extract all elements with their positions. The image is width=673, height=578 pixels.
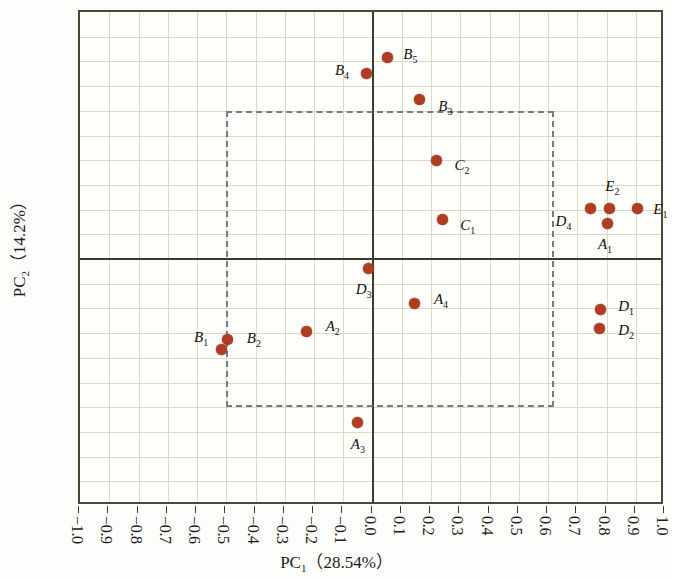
data-point-b5[interactable] xyxy=(382,52,393,63)
data-point-label-a2: A2 xyxy=(326,319,340,337)
x-tick-mark xyxy=(371,506,372,513)
x-tick-label: 0.5 xyxy=(508,516,524,535)
x-tick-mark xyxy=(78,506,79,513)
data-point-label-a4: A4 xyxy=(434,292,448,310)
x-tick-label: 0.8 xyxy=(596,516,612,535)
x-tick-mark xyxy=(224,506,225,513)
x-tick-label: −1.0 xyxy=(69,516,85,544)
gridline-horizontal xyxy=(80,457,661,458)
x-tick-mark xyxy=(254,506,255,513)
x-tick-mark xyxy=(137,506,138,513)
gridline-horizontal xyxy=(80,37,661,38)
x-tick-label: 0.0 xyxy=(362,516,378,535)
data-point-label-c2: C2 xyxy=(454,158,469,176)
data-point-d1[interactable] xyxy=(595,304,606,315)
data-point-label-d1: D1 xyxy=(618,299,634,317)
data-point-e2[interactable] xyxy=(604,203,615,214)
x-tick-mark xyxy=(341,506,342,513)
x-tick-label: 0.7 xyxy=(566,516,582,535)
x-tick-mark xyxy=(458,506,459,513)
x-tick-label: −0.4 xyxy=(245,516,261,544)
x-tick-label: −0.9 xyxy=(98,516,114,544)
x-tick-mark xyxy=(107,506,108,513)
data-point-d2[interactable] xyxy=(594,323,605,334)
data-point-label-b5: B5 xyxy=(403,47,417,65)
gridline-horizontal xyxy=(80,481,661,482)
x-tick-label: 0.1 xyxy=(391,516,407,535)
x-tick-mark xyxy=(546,506,547,513)
x-tick-label: 0.2 xyxy=(420,516,436,535)
x-tick-mark xyxy=(605,506,606,513)
x-tick-mark xyxy=(517,506,518,513)
data-point-d3[interactable] xyxy=(363,263,374,274)
data-point-label-d3: D3 xyxy=(356,282,372,300)
data-point-b3[interactable] xyxy=(414,94,425,105)
data-point-label-c1: C1 xyxy=(460,218,475,236)
data-point-a3[interactable] xyxy=(352,417,363,428)
data-point-d4[interactable] xyxy=(585,203,596,214)
pca-scatter-figure: PC2（14.2%） PC1（28.54%） 1.00.90.80.70.60.… xyxy=(0,0,673,578)
x-tick-label: −0.8 xyxy=(128,516,144,544)
gridline-horizontal xyxy=(80,86,661,87)
data-point-label-b3: B3 xyxy=(438,99,452,117)
x-tick-label: 1.0 xyxy=(654,516,670,535)
x-tick-mark xyxy=(429,506,430,513)
x-tick-label: −0.6 xyxy=(186,516,202,544)
x-tick-label: −0.5 xyxy=(215,516,231,544)
x-tick-mark xyxy=(166,506,167,513)
x-tick-mark xyxy=(195,506,196,513)
data-point-b2[interactable] xyxy=(222,334,233,345)
dashed-selection-box xyxy=(226,111,554,407)
x-tick-label: −0.3 xyxy=(274,516,290,544)
x-tick-mark xyxy=(488,506,489,513)
data-point-a1[interactable] xyxy=(602,218,613,229)
x-tick-mark xyxy=(575,506,576,513)
x-tick-label: −0.1 xyxy=(332,516,348,544)
data-point-c2[interactable] xyxy=(431,155,442,166)
data-point-b4[interactable] xyxy=(361,68,372,79)
data-point-b1[interactable] xyxy=(216,344,227,355)
x-tick-label: −0.7 xyxy=(157,516,173,544)
data-point-label-d4: D4 xyxy=(556,214,572,232)
x-tick-label: 0.6 xyxy=(537,516,553,535)
x-tick-mark xyxy=(400,506,401,513)
gridline-horizontal xyxy=(80,61,661,62)
data-point-label-b4: B4 xyxy=(335,63,349,81)
x-tick-mark xyxy=(634,506,635,513)
gridline-horizontal xyxy=(80,407,661,408)
data-point-label-b2: B2 xyxy=(247,331,261,349)
x-tick-mark xyxy=(312,506,313,513)
data-point-label-d2: D2 xyxy=(618,323,634,341)
data-point-label-e1: E1 xyxy=(653,202,667,220)
data-point-label-a1: A1 xyxy=(598,237,612,255)
x-tick-label: 0.3 xyxy=(449,516,465,535)
x-tick-label: 0.9 xyxy=(625,516,641,535)
x-tick-label: 0.4 xyxy=(479,516,495,535)
data-point-label-e2: E2 xyxy=(605,179,619,197)
gridline-horizontal xyxy=(80,432,661,433)
data-point-label-a3: A3 xyxy=(351,437,365,455)
x-tick-mark xyxy=(663,506,664,513)
data-point-label-b1: B1 xyxy=(194,330,208,348)
plot-area: A1A2A3A4B1B2B3B4B5C1C2D1D2D3D4E1E2 xyxy=(78,10,663,504)
data-point-e1[interactable] xyxy=(632,203,643,214)
x-tick-mark xyxy=(283,506,284,513)
x-tick-label: −0.2 xyxy=(303,516,319,544)
